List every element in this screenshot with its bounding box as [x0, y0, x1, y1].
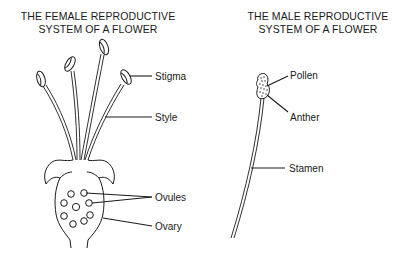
stigmas — [35, 38, 133, 88]
anther-label: Anther — [290, 112, 320, 123]
ovule — [81, 218, 88, 225]
stigma-4 — [119, 68, 134, 86]
ovule — [70, 221, 77, 228]
ovules — [61, 190, 94, 228]
ovary-outline — [45, 160, 115, 248]
style-stalk-1 — [43, 86, 73, 160]
stigma-label: Stigma — [155, 71, 187, 82]
ovule — [72, 203, 79, 210]
ovule — [61, 213, 68, 220]
ovary-flap-right-inner — [87, 172, 99, 178]
ovule — [61, 200, 68, 207]
stigma-2 — [63, 55, 78, 73]
ovules-leader-line-2 — [92, 197, 152, 203]
style-stalks — [43, 54, 124, 160]
ovules-label: Ovules — [155, 192, 186, 203]
male-stamen-illustration — [231, 73, 269, 238]
stigma-3 — [98, 38, 111, 56]
ovary-leader-line — [103, 218, 152, 226]
ovule — [68, 191, 75, 198]
stigma-1 — [35, 70, 47, 88]
female-pistil-illustration — [35, 38, 133, 248]
stamen-label: Stamen — [289, 163, 323, 174]
flower-reproductive-diagram: Stigma Style Ovules Ovary Pollen Anther — [0, 0, 398, 255]
pollen-grains — [259, 76, 267, 96]
ovary-label: Ovary — [155, 221, 182, 232]
pollen-label: Pollen — [290, 70, 318, 81]
pollen-leader-line — [267, 76, 288, 86]
ovary-flap-left-inner — [60, 172, 72, 178]
anther-leader-line — [267, 95, 288, 112]
ovules-leader-line-1 — [86, 193, 152, 197]
style-stalk-1-inner — [46, 85, 76, 160]
ovule — [87, 212, 94, 219]
ovule — [86, 200, 93, 207]
style-label: Style — [155, 112, 178, 123]
